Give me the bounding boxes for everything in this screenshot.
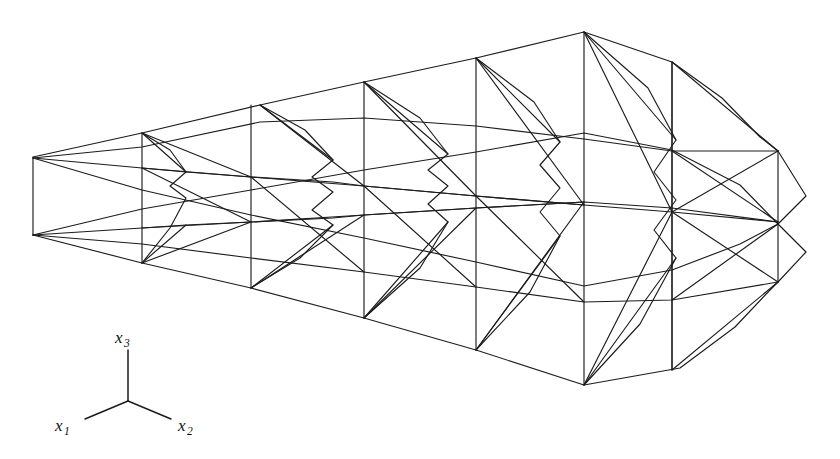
diag-right-1 xyxy=(672,62,778,151)
diag-u-c xyxy=(364,82,476,196)
diag-bot-3 xyxy=(364,222,448,318)
mesh-outline xyxy=(33,32,806,385)
axis-x1-line xyxy=(85,401,128,419)
axis-x1-label: x1 xyxy=(54,416,70,437)
axis-x2-letter: x xyxy=(177,416,186,435)
diag-d-d xyxy=(476,196,584,302)
axis-x2-label: x2 xyxy=(177,416,193,437)
diag-u-a xyxy=(142,133,251,177)
diag-bot-4 xyxy=(476,236,560,350)
top-ridge xyxy=(33,32,778,157)
wireframe-figure: x3 x1 x2 xyxy=(0,0,840,459)
diag-u-d xyxy=(476,58,584,205)
long-line-l1 xyxy=(33,202,778,235)
diag-r-c xyxy=(364,208,476,318)
diag-right-4 xyxy=(672,212,778,282)
diag-d-c xyxy=(364,186,476,287)
long-line-l2 xyxy=(33,133,778,235)
station-4 xyxy=(476,58,560,350)
axis-x3-label: x3 xyxy=(114,328,130,349)
axis-x1-subscript: 1 xyxy=(64,425,70,437)
axis-x2-line xyxy=(128,401,171,419)
diag-d-b xyxy=(251,177,364,272)
long-line-u2 xyxy=(33,158,778,286)
diag-u-e xyxy=(584,32,672,212)
longitudinal-lines xyxy=(33,118,778,302)
diag-right-6 xyxy=(672,224,778,300)
diag-u-b xyxy=(260,105,364,186)
diag-r-e xyxy=(584,212,672,385)
bottom-silhouette xyxy=(33,235,778,385)
axis-x3-letter: x xyxy=(114,328,123,347)
diag-right-5 xyxy=(672,282,778,370)
diag-top-4 xyxy=(476,58,560,142)
station-2 xyxy=(251,105,333,288)
axis-x1-letter: x xyxy=(54,416,63,435)
axis-triad: x3 x1 x2 xyxy=(54,328,193,437)
right-cap-upper xyxy=(778,151,806,282)
diag-right-3 xyxy=(672,151,778,212)
axis-x3-subscript: 3 xyxy=(123,337,130,349)
station-2-curve xyxy=(251,105,333,288)
mesh-canvas: x3 x1 x2 xyxy=(0,0,840,459)
diag-bot-1 xyxy=(142,225,186,263)
diag-right-2 xyxy=(672,151,778,222)
long-line-mid xyxy=(142,168,584,205)
diag-bot-2 xyxy=(251,225,333,288)
diag-top-3 xyxy=(364,82,448,154)
diag-bot-5 xyxy=(584,258,676,385)
station-4-curve xyxy=(476,58,560,350)
axis-x2-subscript: 2 xyxy=(187,425,193,437)
